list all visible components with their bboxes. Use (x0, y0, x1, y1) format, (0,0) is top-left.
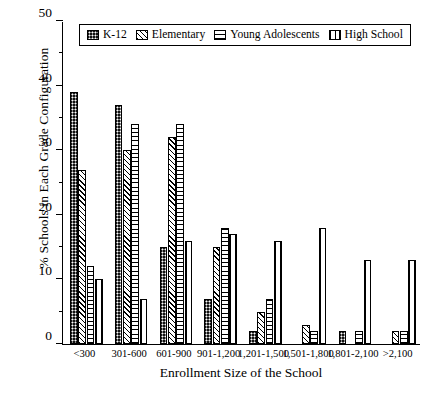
x-axis-tick-label: 601-900 (156, 348, 191, 359)
bar (87, 266, 95, 344)
y-axis-major-tick (56, 149, 63, 150)
x-axis-tick-label: 301-600 (111, 348, 146, 359)
bar (408, 260, 416, 344)
bar (400, 331, 408, 344)
bar-group (70, 22, 103, 344)
y-axis-tick-label: 40 (39, 70, 53, 86)
bar (257, 312, 265, 344)
x-axis-tick-label: 1,201-1,500 (238, 348, 289, 359)
x-axis-tick-label: >2,100 (383, 348, 413, 359)
y-axis-tick-label: 20 (39, 199, 53, 215)
legend-swatch-icon (329, 30, 341, 40)
chart-legend: K-12ElementaryYoung AdolescentsHigh Scho… (79, 24, 411, 46)
legend-swatch-icon (87, 30, 99, 40)
bar (70, 92, 78, 344)
x-axis-tick-label: 1,801-2,100 (327, 348, 378, 359)
legend-item: High School (329, 29, 403, 41)
y-axis-major-tick (56, 343, 63, 344)
legend-label: Elementary (152, 29, 205, 41)
bar (229, 234, 237, 344)
x-axis-tick-label: 901-1,200 (197, 348, 240, 359)
bar-chart: % Schools in Each Grade Configuration 01… (0, 0, 435, 395)
y-axis-major-tick (56, 278, 63, 279)
bar-group (115, 22, 148, 344)
y-axis-major-tick (56, 214, 63, 215)
bar (78, 170, 86, 344)
x-axis-tick-label: <300 (73, 348, 95, 359)
y-axis-tick-label: 10 (39, 263, 53, 279)
bar (266, 299, 274, 344)
bar (274, 241, 282, 344)
legend-label: High School (345, 29, 403, 41)
bar (392, 331, 400, 344)
legend-item: Elementary (136, 29, 205, 41)
bar (115, 105, 123, 344)
bar (364, 260, 372, 344)
bar (249, 331, 257, 344)
bar (339, 331, 347, 344)
legend-item: Young Adolescents (214, 29, 319, 41)
x-axis-title: Enrollment Size of the School (62, 365, 420, 381)
plot-area: 01020304050 (62, 22, 420, 345)
y-axis-tick-label: 0 (45, 328, 52, 344)
legend-label: K-12 (103, 29, 127, 41)
bar-group (383, 22, 416, 344)
bar (160, 247, 168, 344)
legend-label: Young Adolescents (230, 29, 319, 41)
legend-swatch-icon (136, 30, 148, 40)
bar (221, 228, 229, 344)
y-axis-major-tick (56, 20, 63, 21)
bar-group (160, 22, 193, 344)
legend-item: K-12 (87, 29, 127, 41)
bar (185, 241, 193, 344)
y-axis-tick-label: 30 (39, 134, 53, 150)
bar (168, 137, 176, 344)
bar-group (294, 22, 327, 344)
bar (310, 331, 318, 344)
bar (176, 124, 184, 344)
y-axis-major-tick (56, 85, 63, 86)
bar (140, 299, 148, 344)
bar-group (339, 22, 372, 344)
bar-group (204, 22, 237, 344)
y-axis-title: % Schools in Each Grade Configuration (36, 18, 52, 298)
legend-swatch-icon (214, 30, 226, 40)
bar-group (249, 22, 282, 344)
bar (355, 331, 363, 344)
bar (213, 247, 221, 344)
bar (123, 150, 131, 344)
bar (204, 299, 212, 344)
bar (319, 228, 327, 344)
y-axis-tick-label: 50 (39, 5, 53, 21)
x-axis-tick-label: 1,501-1,800 (283, 348, 334, 359)
bar (131, 124, 139, 344)
bar (302, 325, 310, 344)
bar-series-container (63, 22, 420, 344)
bar (95, 279, 103, 344)
